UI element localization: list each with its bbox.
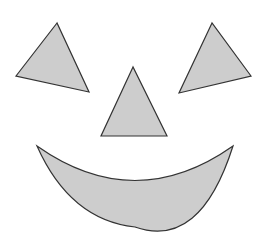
jack-o-lantern-face — [0, 0, 260, 239]
